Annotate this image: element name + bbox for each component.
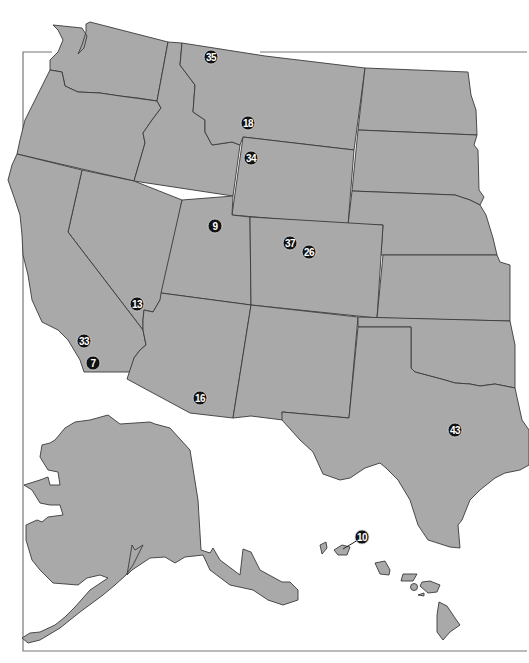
state-new-mexico — [233, 305, 358, 420]
map-marker-9[interactable]: 9 — [208, 219, 222, 233]
state-hawaii-kauai — [320, 542, 327, 554]
map-marker-26[interactable]: 26 — [302, 245, 316, 259]
map-marker-18[interactable]: 18 — [241, 116, 255, 130]
state-colorado — [250, 217, 383, 318]
map-marker-16[interactable]: 16 — [193, 391, 207, 405]
state-hawaii-maui-west — [401, 574, 417, 581]
map-marker-43[interactable]: 43 — [448, 423, 462, 437]
state-wyoming — [232, 137, 354, 225]
state-kansas — [377, 255, 510, 321]
marker-label: 37 — [285, 238, 296, 249]
state-hawaii-lanai — [411, 584, 418, 591]
map-marker-7[interactable]: 7 — [86, 356, 100, 370]
western-us-map: 3518349372613337164310 — [0, 0, 529, 663]
state-hawaii-maui — [420, 581, 440, 593]
marker-label: 10 — [357, 532, 368, 543]
marker-label: 26 — [304, 247, 315, 258]
marker-label: 13 — [132, 299, 143, 310]
state-alaska — [22, 415, 298, 643]
map-marker-35[interactable]: 35 — [204, 50, 218, 64]
state-arizona — [127, 293, 251, 418]
map-marker-13[interactable]: 13 — [130, 297, 144, 311]
marker-label: 18 — [243, 118, 254, 129]
state-hawaii-big-island — [437, 602, 460, 640]
state-hawaii-kahoolawe — [418, 593, 424, 596]
map-marker-10[interactable]: 10 — [355, 530, 369, 544]
map-marker-33[interactable]: 33 — [77, 334, 91, 348]
marker-label: 43 — [450, 425, 461, 436]
state-hawaii-molokai — [375, 561, 390, 575]
marker-label: 34 — [246, 153, 257, 164]
map-marker-34[interactable]: 34 — [244, 151, 258, 165]
marker-10-leader — [343, 540, 358, 549]
marker-label: 35 — [206, 52, 217, 63]
marker-label: 16 — [195, 393, 206, 404]
map-marker-37[interactable]: 37 — [283, 236, 297, 250]
marker-label: 33 — [79, 336, 90, 347]
state-north-dakota — [358, 68, 477, 135]
